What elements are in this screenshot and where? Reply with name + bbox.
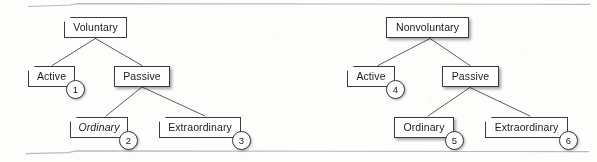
diagram-figure: Voluntary Active 1 Passive Ordinary 2 Ex… [0,0,597,162]
node-voluntary-extraordinary-label: Extraordinary [168,122,232,133]
node-nonvoluntary[interactable]: Nonvoluntary [386,17,469,38]
badge-2-label: 2 [126,136,131,146]
node-voluntary-active-label: Active [37,71,66,82]
badge-1[interactable]: 1 [66,80,85,99]
node-nonvoluntary-extraordinary-label: Extraordinary [495,122,559,133]
node-voluntary[interactable]: Voluntary [64,17,127,38]
badge-6-label: 6 [566,136,571,146]
badge-1-label: 1 [73,85,78,95]
node-nonvoluntary-passive-label: Passive [452,71,489,82]
node-voluntary-passive[interactable]: Passive [114,66,170,87]
edge-passive-extraordinary-right [470,88,530,117]
node-nonvoluntary-label: Nonvoluntary [396,22,459,33]
badge-5[interactable]: 5 [445,131,464,150]
node-voluntary-ordinary-label: Ordinary [78,122,119,133]
node-nonvoluntary-passive[interactable]: Passive [442,66,499,87]
top-rule [28,4,590,7]
badge-2[interactable]: 2 [119,131,138,150]
node-voluntary-passive-label: Passive [123,71,160,82]
badge-4[interactable]: 4 [386,80,405,99]
node-nonvoluntary-extraordinary[interactable]: Extraordinary [485,117,568,138]
node-nonvoluntary-ordinary-label: Ordinary [403,122,444,133]
badge-3-label: 3 [239,136,244,146]
edge-passive-ordinary-right [428,88,470,117]
node-voluntary-label: Voluntary [73,22,118,33]
badge-5-label: 5 [452,136,457,146]
edge-voluntary-passive [96,39,143,66]
bottom-rule [26,151,589,154]
edge-nonvoluntary-active [378,39,430,66]
badge-4-label: 4 [393,85,398,95]
edge-passive-extraordinary [142,87,205,116]
node-nonvoluntary-active-label: Active [356,71,385,82]
badge-6[interactable]: 6 [559,131,578,150]
node-voluntary-extraordinary[interactable]: Extraordinary [159,117,241,138]
badge-3[interactable]: 3 [232,131,251,150]
edge-passive-ordinary [106,87,142,116]
edge-nonvoluntary-passive [430,39,470,66]
edge-voluntary-active [52,39,96,66]
node-nonvoluntary-ordinary[interactable]: Ordinary [394,117,454,138]
